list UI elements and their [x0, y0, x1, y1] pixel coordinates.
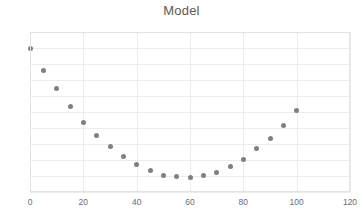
x-tick-label: 100 [282, 198, 312, 207]
x-tick-label: 40 [122, 198, 152, 207]
x-tick-label: 80 [228, 198, 258, 207]
x-tick-label: 20 [68, 198, 98, 207]
x-tick-label: 60 [175, 198, 205, 207]
x-tick-label: 0 [15, 198, 45, 207]
chart-title: Model [0, 3, 363, 18]
gridline-horizontal [30, 192, 350, 193]
gridline-vertical [350, 32, 351, 192]
plot-frame [30, 32, 350, 192]
x-tick-label: 120 [335, 198, 363, 207]
plot-area [30, 32, 350, 192]
chart-container: Model 0102030405060708090100 02040608010… [0, 0, 363, 220]
